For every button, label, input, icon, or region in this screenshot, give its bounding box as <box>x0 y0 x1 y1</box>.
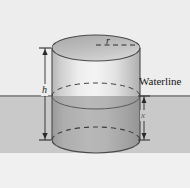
submerged-depth-arrowhead-up <box>142 97 147 103</box>
waterline-label: Waterline <box>139 76 181 87</box>
height-arrowhead-down <box>42 133 47 139</box>
submerged-depth-arrowhead-down <box>142 133 147 139</box>
height-arrowhead-up <box>42 49 47 55</box>
cylinder-scene <box>0 0 190 188</box>
floating-cylinder-diagram: Waterline r h x <box>0 0 190 188</box>
submerged-depth-label: x <box>140 110 146 121</box>
cylinder-top-face <box>52 35 140 61</box>
radius-label: r <box>106 36 110 46</box>
height-label: h <box>41 84 48 96</box>
cylinder-body-below-water <box>52 96 140 153</box>
